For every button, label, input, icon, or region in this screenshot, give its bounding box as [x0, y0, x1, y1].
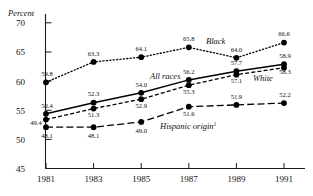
series-hispanic-origin: 48.1 48.1 49.0 51.6 51.9 52.2 Hispanic o…: [41, 91, 291, 139]
value-label: 48.1: [41, 132, 53, 139]
value-label: 48.1: [88, 132, 100, 139]
percent-line-chart: Percent 70 65 60 55 50 45 1981 1983 1985…: [0, 0, 313, 196]
x-tick-label-1991: 1991: [275, 174, 293, 184]
y-tick-labels: 70 65 60 55 50 45: [16, 18, 26, 174]
value-label: 63.3: [88, 50, 100, 57]
y-tick-label: 50: [16, 135, 26, 145]
series-label-white: White: [253, 73, 273, 83]
y-tick-label: 70: [16, 18, 26, 28]
y-axis-title: Percent: [7, 8, 35, 18]
value-label: 52.2: [279, 91, 291, 98]
value-label: 52.9: [135, 102, 147, 109]
footnote-marker: 1: [214, 121, 217, 127]
value-label: 49.4: [30, 119, 42, 126]
axes: [46, 14, 306, 169]
series-all-races: 50.4 52.3 54.0 56.2 57.7 58.9 All races: [41, 52, 291, 117]
value-label: 51.6: [183, 110, 195, 117]
value-label: 50.4: [41, 102, 53, 109]
value-label: 56.2: [183, 68, 195, 75]
value-label: 55.3: [183, 88, 195, 95]
value-label: 57.1: [231, 77, 243, 84]
y-tick-label: 55: [16, 106, 26, 116]
y-tick-label: 45: [16, 164, 26, 174]
value-label: 65.8: [183, 35, 195, 42]
value-label: 49.0: [135, 127, 147, 134]
x-tick-marks: [46, 163, 284, 169]
x-tick-label-1985: 1985: [132, 174, 151, 184]
series-label-hispanic-origin: Hispanic origin1: [159, 121, 217, 131]
series-label-hispanic-origin-text: Hispanic origin: [159, 121, 214, 131]
series-label-all-races: All races: [149, 71, 181, 81]
y-tick-marks: [46, 23, 52, 169]
x-tick-label-1981: 1981: [37, 174, 55, 184]
value-label: 64.0: [231, 46, 243, 53]
value-label: 51.3: [88, 111, 100, 118]
value-label: 58.3: [279, 68, 291, 75]
chart-canvas: Percent 70 65 60 55 50 45 1981 1983 1985…: [0, 0, 313, 196]
value-label: 59.8: [41, 70, 53, 77]
value-label: 52.3: [88, 90, 100, 97]
value-label: 54.0: [135, 81, 147, 88]
series-label-black: Black: [206, 36, 226, 46]
value-label: 66.6: [278, 30, 290, 37]
x-tick-label-1983: 1983: [85, 174, 104, 184]
x-tick-label-1987: 1987: [180, 174, 199, 184]
value-label: 57.7: [231, 59, 243, 66]
value-label: 58.9: [279, 52, 291, 59]
value-label: 51.9: [231, 93, 243, 100]
y-tick-label: 65: [16, 47, 26, 57]
x-tick-label-1989: 1989: [227, 174, 246, 184]
x-tick-labels: 1981 1983 1985 1987 1989 1991: [37, 174, 293, 184]
value-label: 64.1: [135, 45, 147, 52]
y-tick-label: 60: [16, 77, 26, 87]
